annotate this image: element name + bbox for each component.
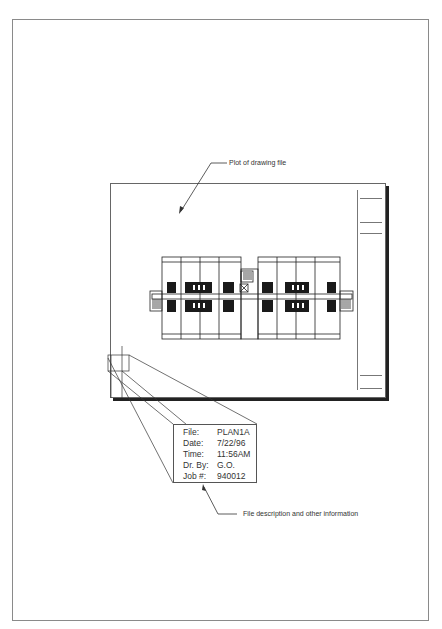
info-key: Dr. By: — [183, 460, 217, 471]
info-row-file: File: PLAN1A — [183, 427, 256, 438]
info-key: File: — [183, 427, 217, 438]
unit-core-blocks — [167, 282, 336, 312]
info-key: Date: — [183, 438, 217, 449]
info-key: Time: — [183, 449, 217, 460]
info-row-date: Date: 7/22/96 — [183, 438, 256, 449]
info-value: G.O. — [217, 460, 235, 471]
plot-callout-label: Plot of drawing file — [229, 159, 286, 166]
info-row-drawn-by: Dr. By: G.O. — [183, 460, 256, 471]
arrowhead-icon — [202, 484, 206, 491]
info-value: 7/22/96 — [217, 438, 245, 449]
info-value: 940012 — [217, 471, 245, 482]
file-info-box: File: PLAN1A Date: 7/22/96 Time: 11:56AM… — [173, 424, 257, 483]
info-value: PLAN1A — [217, 427, 250, 438]
info-leader-line — [204, 487, 237, 514]
info-callout-label: File description and other information — [243, 510, 358, 517]
floor-plan — [150, 257, 353, 339]
diagram-linework — [0, 0, 442, 629]
info-row-job: Job #: 940012 — [183, 471, 256, 482]
info-key: Job #: — [183, 471, 217, 482]
info-value: 11:56AM — [217, 449, 250, 460]
info-row-time: Time: 11:56AM — [183, 449, 256, 460]
plot-leader-line — [181, 163, 227, 211]
